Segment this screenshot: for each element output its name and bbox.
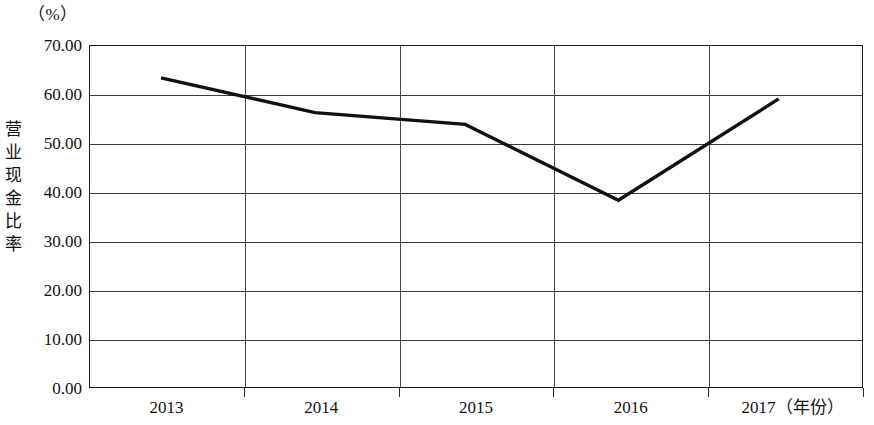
x-tick-mark bbox=[244, 388, 245, 397]
gridline-vertical bbox=[709, 46, 710, 387]
y-axis-title-char: 比 bbox=[2, 210, 24, 233]
y-axis-title-char: 率 bbox=[2, 233, 24, 256]
y-tick-label: 50.00 bbox=[26, 135, 82, 152]
gridline-horizontal bbox=[90, 242, 862, 243]
x-tick-label: 2017（年份） bbox=[742, 398, 844, 418]
y-tick-label: 0.00 bbox=[26, 380, 82, 397]
y-tick-label: 30.00 bbox=[26, 233, 82, 250]
x-tick-label: 2016 bbox=[614, 398, 648, 418]
x-tick-mark bbox=[708, 388, 709, 397]
x-tick-mark bbox=[863, 388, 864, 397]
y-tick-label: 10.00 bbox=[26, 331, 82, 348]
y-axis-title-char: 业 bbox=[2, 141, 24, 164]
chart-figure: （%） 营 业 现 金 比 率 70.0060.0050.0040.0030.0… bbox=[0, 0, 874, 425]
y-axis-tick-labels: 70.0060.0050.0040.0030.0020.0010.000.00 bbox=[26, 0, 82, 425]
y-tick-label: 20.00 bbox=[26, 282, 82, 299]
y-axis-title-char: 营 bbox=[2, 118, 24, 141]
y-axis-title-char: 金 bbox=[2, 187, 24, 210]
y-tick-label: 40.00 bbox=[26, 184, 82, 201]
gridline-vertical bbox=[245, 46, 246, 387]
y-axis-title-char: 现 bbox=[2, 164, 24, 187]
y-axis-title: 营 业 现 金 比 率 bbox=[2, 118, 24, 256]
x-tick-mark bbox=[553, 388, 554, 397]
gridline-horizontal bbox=[90, 144, 862, 145]
gridline-horizontal bbox=[90, 340, 862, 341]
y-tick-label: 60.00 bbox=[26, 86, 82, 103]
gridline-vertical bbox=[400, 46, 401, 387]
plot-area bbox=[89, 45, 863, 388]
gridline-horizontal bbox=[90, 291, 862, 292]
gridline-horizontal bbox=[90, 95, 862, 96]
gridline-horizontal bbox=[90, 193, 862, 194]
x-tick-label: 2015 bbox=[459, 398, 493, 418]
x-tick-label: 2014 bbox=[304, 398, 338, 418]
x-tick-mark bbox=[399, 388, 400, 397]
x-tick-label: 2013 bbox=[149, 398, 183, 418]
gridline-vertical bbox=[554, 46, 555, 387]
y-tick-label: 70.00 bbox=[26, 37, 82, 54]
